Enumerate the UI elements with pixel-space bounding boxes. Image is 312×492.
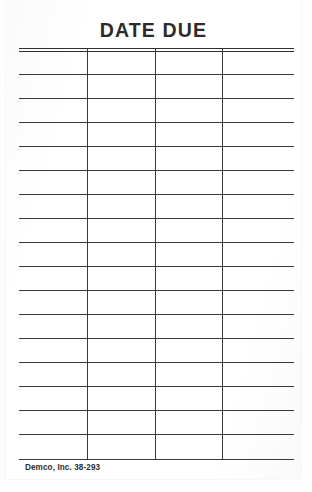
date-cell[interactable] [19,74,87,98]
publisher-imprint: Demco, Inc. 38-293 [25,462,100,472]
date-cell[interactable] [222,314,294,338]
date-cell[interactable] [155,218,222,242]
date-cell[interactable] [222,386,294,410]
date-cell[interactable] [155,146,222,170]
date-cell[interactable] [155,314,222,338]
date-cell[interactable] [155,194,222,218]
date-cell[interactable] [155,290,222,314]
date-due-card: DATE DUE Demco, Inc. 38-293 [0,0,312,492]
date-cell[interactable] [87,146,155,170]
date-cell[interactable] [87,386,155,410]
date-cell[interactable] [222,242,294,266]
date-cell[interactable] [87,122,155,146]
page-title: DATE DUE [16,18,290,42]
date-due-grid [19,46,294,460]
date-cell[interactable] [19,434,87,459]
date-cell[interactable] [19,146,87,170]
date-cell[interactable] [19,218,87,242]
date-cell[interactable] [19,194,87,218]
row-rule [19,459,294,460]
date-cell[interactable] [155,338,222,362]
date-cell[interactable] [87,242,155,266]
date-cell[interactable] [87,266,155,290]
date-cell[interactable] [87,314,155,338]
date-cell[interactable] [222,146,294,170]
date-cell[interactable] [87,194,155,218]
date-cell[interactable] [155,362,222,386]
header-rule [19,48,294,49]
date-cell[interactable] [19,290,87,314]
date-cell[interactable] [155,266,222,290]
date-cell[interactable] [19,386,87,410]
paper-sheet: DATE DUE Demco, Inc. 38-293 [6,0,301,479]
date-cell[interactable] [222,218,294,242]
date-cell[interactable] [87,170,155,194]
date-cell[interactable] [222,410,294,434]
date-cell[interactable] [155,122,222,146]
date-cell[interactable] [19,170,87,194]
date-cell[interactable] [222,362,294,386]
date-cell[interactable] [19,51,87,74]
date-cell[interactable] [222,434,294,459]
date-cell[interactable] [222,122,294,146]
date-cell[interactable] [19,314,87,338]
date-cell[interactable] [87,338,155,362]
date-cell[interactable] [87,410,155,434]
date-cell[interactable] [19,338,87,362]
date-cell[interactable] [19,410,87,434]
date-cell[interactable] [87,218,155,242]
date-cell[interactable] [19,362,87,386]
date-cell[interactable] [19,122,87,146]
date-cell[interactable] [19,98,87,122]
date-cell[interactable] [155,170,222,194]
date-cell[interactable] [87,362,155,386]
date-cell[interactable] [222,170,294,194]
date-cell[interactable] [87,290,155,314]
date-cell[interactable] [155,98,222,122]
date-cell[interactable] [222,266,294,290]
date-cell[interactable] [222,290,294,314]
date-cell[interactable] [222,74,294,98]
date-cell[interactable] [155,386,222,410]
date-cell[interactable] [222,51,294,74]
date-cell[interactable] [222,338,294,362]
date-cell[interactable] [87,434,155,459]
date-cell[interactable] [155,51,222,74]
date-cell[interactable] [155,242,222,266]
date-cell[interactable] [155,410,222,434]
date-cell[interactable] [19,266,87,290]
date-cell[interactable] [19,242,87,266]
date-cell[interactable] [222,98,294,122]
date-cell[interactable] [222,194,294,218]
date-cell[interactable] [87,74,155,98]
date-cell[interactable] [155,434,222,459]
date-cell[interactable] [155,74,222,98]
date-cell[interactable] [87,51,155,74]
date-cell[interactable] [87,98,155,122]
